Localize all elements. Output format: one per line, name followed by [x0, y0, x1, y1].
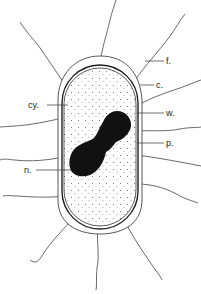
label-w: w.: [165, 108, 175, 118]
label-f: f.: [166, 56, 171, 66]
bacterial-cell-diagram: f. c. w. p. cy. n.: [0, 0, 201, 294]
label-c: c.: [156, 80, 163, 90]
label-cy: cy.: [28, 100, 39, 110]
label-n: n.: [24, 165, 32, 175]
label-p: p.: [166, 138, 174, 148]
